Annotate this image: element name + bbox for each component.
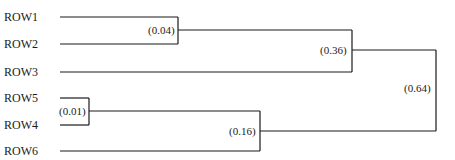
- leaf-label-row2: ROW2: [4, 37, 38, 51]
- node-label-0.16: (0.16): [229, 124, 256, 138]
- node-label-0.01: (0.01): [59, 104, 86, 118]
- leaf-label-row5: ROW5: [4, 91, 38, 105]
- dendrogram-lines: [0, 0, 455, 160]
- node-label-0.64: (0.64): [404, 81, 431, 95]
- leaf-label-row3: ROW3: [4, 65, 38, 79]
- leaf-label-row4: ROW4: [4, 118, 38, 132]
- leaf-label-row6: ROW6: [4, 144, 38, 158]
- node-label-0.04: (0.04): [148, 23, 175, 37]
- leaf-label-row1: ROW1: [4, 10, 38, 24]
- node-label-0.36: (0.36): [320, 43, 347, 57]
